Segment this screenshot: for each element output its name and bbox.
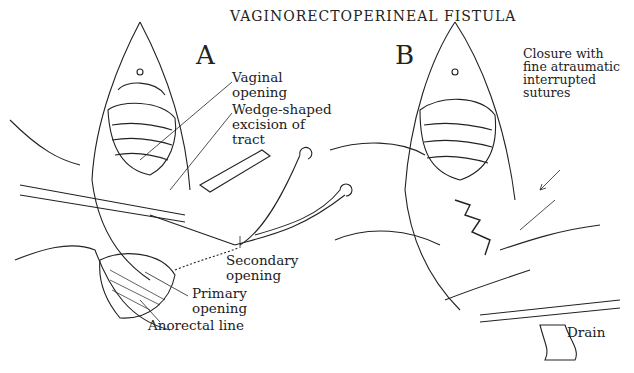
label-closure: Closure with fine atraumatic interrupted… <box>523 47 620 99</box>
label-vaginal-opening: Vaginal opening <box>232 70 287 100</box>
label-drain: Drain <box>567 325 605 340</box>
panel-a-letter: A <box>196 40 215 70</box>
label-secondary-opening: Secondary opening <box>226 253 298 283</box>
label-anorectal-line: Anorectal line <box>148 318 244 333</box>
panel-b-leaders <box>520 170 560 230</box>
panel-b-letter: B <box>395 40 414 70</box>
label-primary-opening: Primary opening <box>192 286 247 316</box>
label-wedge-excision: Wedge-shaped excision of tract <box>232 102 332 147</box>
figure-title: VAGINORECTOPERINEAL FISTULA <box>230 8 516 24</box>
